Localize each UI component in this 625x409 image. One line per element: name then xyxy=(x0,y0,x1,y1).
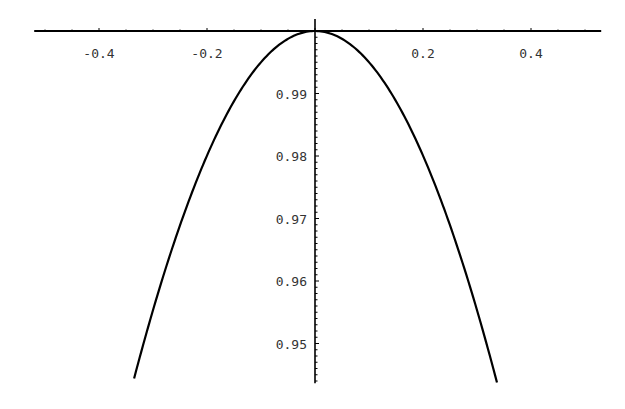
y-axis xyxy=(315,19,319,383)
x-tick-label: 0.2 xyxy=(411,46,434,61)
x-tick-label: -0.4 xyxy=(83,46,114,61)
y-tick-label: 0.97 xyxy=(276,212,307,227)
y-tick-label: 0.96 xyxy=(276,274,307,289)
x-tick-labels: -0.4-0.20.20.4 xyxy=(83,46,543,61)
y-tick-label: 0.98 xyxy=(276,149,307,164)
y-tick-labels: 0.990.980.970.960.95 xyxy=(276,87,307,352)
chart-plot-area: -0.4-0.20.20.4 0.990.980.970.960.95 xyxy=(0,0,625,409)
y-tick-label: 0.99 xyxy=(276,87,307,102)
y-tick-label: 0.95 xyxy=(276,337,307,352)
x-tick-label: 0.4 xyxy=(519,46,543,61)
x-tick-label: -0.2 xyxy=(191,46,222,61)
